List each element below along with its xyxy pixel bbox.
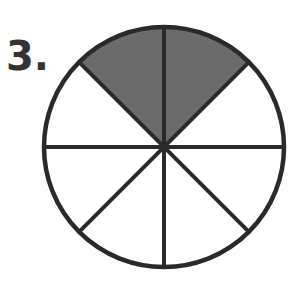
shaded-sector-top-left	[79, 27, 164, 147]
shaded-sector-top-right	[164, 27, 249, 147]
fraction-circle-diagram	[0, 0, 304, 297]
